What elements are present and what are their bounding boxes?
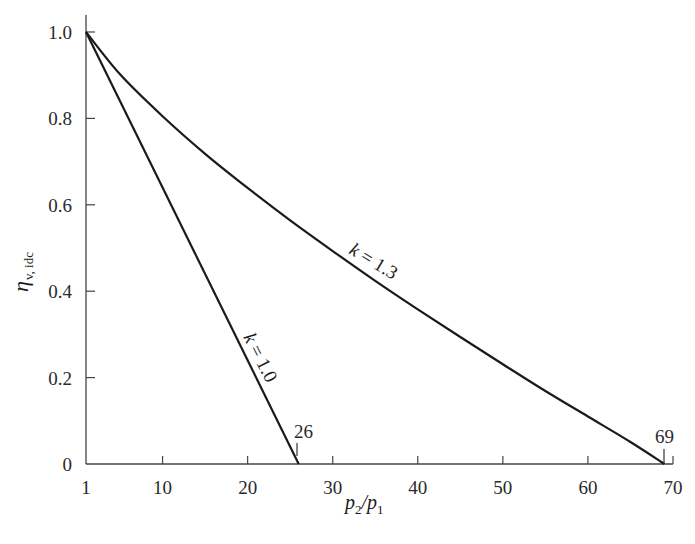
y-axis-title: ηv, idc xyxy=(8,252,36,292)
x-tick-label: 70 xyxy=(664,477,683,498)
axes xyxy=(86,15,673,464)
x-tick-label: 40 xyxy=(408,477,427,498)
label-k-1-3: k = 1.3 xyxy=(346,238,402,283)
x-tick-label: 50 xyxy=(493,477,512,498)
efficiency-chart: 11020304050607000.20.40.60.81.0 p2/p1 ηv… xyxy=(0,0,695,544)
curves xyxy=(86,32,664,464)
x-tick-label: 60 xyxy=(578,477,597,498)
y-tick-label: 0.4 xyxy=(48,281,72,302)
curve-k-1-0 xyxy=(86,32,299,464)
annotation-69: 69 xyxy=(655,426,674,447)
y-tick-label: 0 xyxy=(63,454,73,475)
x-tick-label: 30 xyxy=(323,477,342,498)
x-axis-title: p2/p1 xyxy=(343,491,384,517)
curve-k-1-3 xyxy=(86,32,664,464)
x-tick-label: 1 xyxy=(81,477,91,498)
x-tick-label: 10 xyxy=(153,477,172,498)
x-tick-label: 20 xyxy=(238,477,257,498)
y-tick-label: 1.0 xyxy=(48,22,72,43)
y-tick-label: 0.8 xyxy=(48,108,72,129)
annotation-26: 26 xyxy=(294,421,313,442)
y-tick-label: 0.6 xyxy=(48,195,72,216)
y-tick-label: 0.2 xyxy=(48,368,72,389)
